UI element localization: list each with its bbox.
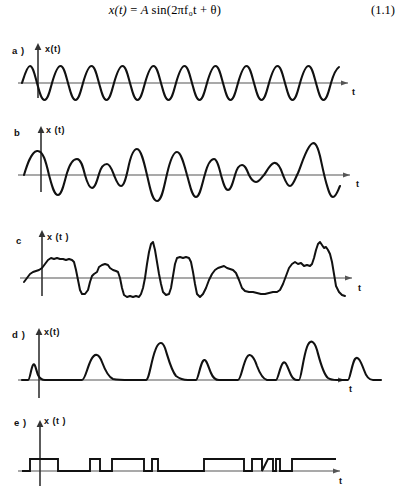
- y-axis-arrow-d: [36, 328, 43, 335]
- signal-panel-d: d ) x(t) t: [0, 318, 407, 414]
- equation-row: x(t) = A sin(2πf₀t + θ) (1.1): [0, 0, 407, 26]
- y-axis-arrow-b: [38, 126, 45, 133]
- equation-number: (1.1): [371, 3, 395, 18]
- waveform-curve-e: [22, 459, 336, 471]
- waveform-plot-b: [0, 116, 407, 216]
- waveform-plot-c: [0, 218, 407, 318]
- waveform-plot-e: [0, 414, 407, 497]
- equation-amplitude: A: [141, 3, 149, 17]
- waveform-curve-b: [24, 143, 340, 201]
- waveform-plot-d: [0, 318, 407, 414]
- equation-lhs: x(t): [109, 3, 127, 17]
- t-axis-arrow-e: [333, 468, 340, 473]
- signal-panel-b: b x (t) t: [0, 116, 407, 216]
- equation-argument: (2πf₀t + θ): [167, 3, 221, 17]
- waveform-curve-c: [24, 242, 345, 297]
- equation-formula: x(t) = A sin(2πf₀t + θ): [0, 3, 330, 18]
- waveform-plot-a: [0, 36, 407, 118]
- signal-panel-a: a ) x(t) t: [0, 36, 407, 118]
- t-axis-arrow-b: [343, 172, 350, 177]
- t-axis-arrow-a: [341, 80, 348, 85]
- y-axis-arrow-a: [35, 43, 42, 50]
- y-axis-arrow-e: [37, 420, 44, 427]
- waveform-curve-d: [22, 342, 381, 380]
- equation-equals: =: [130, 3, 137, 17]
- equation-function: sin: [152, 3, 167, 17]
- t-axis-arrow-c: [345, 275, 352, 280]
- y-axis-arrow-c: [39, 230, 46, 237]
- signal-panel-c: c x (t ) t: [0, 218, 407, 318]
- signal-panel-e: e ) x (t ) t: [0, 414, 407, 497]
